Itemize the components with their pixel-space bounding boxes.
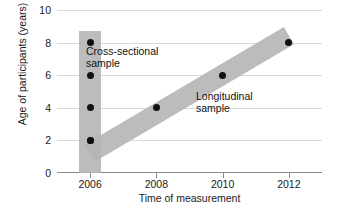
y-tick-label-6: 6: [45, 70, 51, 81]
annotation-cross-sectional-sample: Cross-sectional sample: [86, 45, 158, 70]
y-axis-tick-labels: 0246810: [30, 10, 51, 173]
annotation-longitudinal-sample: Longitudinal sample: [196, 90, 253, 115]
y-tick-label-2: 2: [45, 135, 51, 146]
y-tick-label-8: 8: [45, 37, 51, 48]
data-point: [87, 137, 94, 144]
y-axis-title: Age of participants (years): [16, 0, 28, 134]
data-point: [87, 72, 94, 79]
data-point: [219, 72, 226, 79]
y-tick-label-0: 0: [45, 168, 51, 179]
chart-figure: Age of participants (years) 0246810 Time…: [0, 0, 341, 209]
y-tick-label-10: 10: [39, 5, 51, 16]
x-tick-label-2012: 2012: [277, 179, 300, 190]
data-point: [87, 104, 94, 111]
x-tick-label-2008: 2008: [145, 179, 168, 190]
x-tick-label-2006: 2006: [78, 179, 101, 190]
x-tick-label-2010: 2010: [211, 179, 234, 190]
plot-area: [57, 10, 322, 173]
y-tick-label-4: 4: [45, 103, 51, 114]
x-axis-title: Time of measurement: [57, 192, 322, 204]
gridline-y-10: [57, 10, 322, 11]
